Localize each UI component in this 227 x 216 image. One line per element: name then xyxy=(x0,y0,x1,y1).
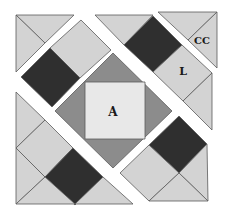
label-a: A xyxy=(107,105,118,119)
quilt-block-svg: ALCC xyxy=(0,0,227,216)
quilt-block-figure: ALCC Quilt block diagram xyxy=(0,0,227,216)
label-cc: CC xyxy=(194,35,210,46)
label-l: L xyxy=(179,65,187,78)
